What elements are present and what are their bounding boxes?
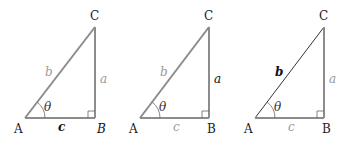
right-angle-marker: [202, 111, 209, 118]
side-b-label: b: [45, 65, 53, 79]
vertex-b-label: B: [322, 122, 331, 136]
angle-theta-label: θ: [44, 100, 52, 114]
right-triangles-figure: C A B b a c θ C A B b a c θ C A B b a c …: [0, 0, 350, 142]
angle-theta-label: θ: [159, 100, 167, 114]
vertex-b-label: B: [96, 122, 106, 136]
vertex-c-label: C: [90, 9, 99, 23]
right-angle-marker: [317, 111, 324, 118]
vertex-c-label: C: [204, 9, 213, 23]
side-a-label: a: [329, 72, 336, 86]
triangle-right: C A B b a c θ: [243, 9, 336, 136]
triangle-left: C A B b a c θ: [13, 9, 107, 136]
vertex-a-label: A: [13, 122, 23, 136]
hypotenuse-b: [140, 27, 209, 118]
right-angle-marker: [88, 111, 95, 118]
vertex-b-label: B: [207, 122, 216, 136]
vertex-c-label: C: [319, 9, 328, 23]
side-b-label: b: [160, 65, 168, 79]
vertex-a-label: A: [128, 122, 138, 136]
vertex-a-label: A: [243, 122, 253, 136]
side-b-label: b: [275, 65, 283, 79]
triangle-middle: C A B b a c θ: [128, 9, 221, 136]
hypotenuse-b: [25, 27, 95, 118]
side-a-label: a: [214, 72, 221, 86]
side-c-label: c: [58, 120, 66, 134]
angle-theta-label: θ: [274, 100, 282, 114]
side-a-label: a: [100, 72, 107, 86]
hypotenuse-b: [255, 27, 324, 118]
side-c-label: c: [173, 120, 180, 134]
side-c-label: c: [288, 120, 295, 134]
